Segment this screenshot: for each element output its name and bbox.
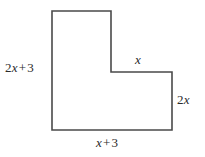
left-operator: + [18, 60, 28, 75]
l-shape-outline [52, 11, 172, 130]
right-coefficient: 2 [177, 92, 184, 107]
dimension-label-right-side: 2x [177, 93, 190, 107]
left-coefficient: 2 [5, 60, 12, 75]
left-constant: 3 [27, 60, 34, 75]
notch-top-variable: x [135, 52, 141, 67]
bottom-constant: 3 [112, 135, 119, 150]
left-variable: x [12, 60, 18, 75]
dimension-label-left-side: 2x+3 [5, 61, 34, 75]
l-shape-polygon-svg [0, 0, 205, 157]
bottom-operator: + [102, 135, 112, 150]
geometry-figure: 2x+3 x 2x x+3 [0, 0, 205, 157]
right-variable: x [184, 92, 190, 107]
dimension-label-bottom-side: x+3 [96, 136, 118, 150]
dimension-label-notch-top: x [135, 53, 141, 67]
